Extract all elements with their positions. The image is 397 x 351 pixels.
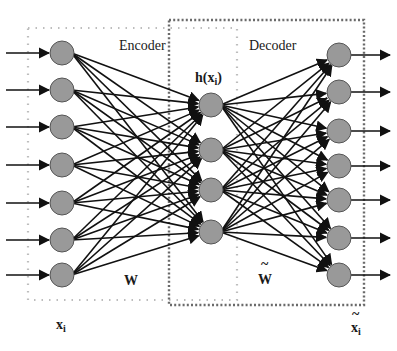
input-node	[50, 153, 74, 177]
decoder-weights-label: W	[258, 272, 272, 287]
output-label: xi	[351, 320, 361, 337]
encoder-label: Encoder	[119, 38, 166, 53]
input-node	[50, 228, 74, 252]
output-label-sub: i	[358, 326, 361, 337]
output-node	[327, 119, 351, 143]
encoder-edge	[72, 236, 199, 275]
hidden-node	[199, 93, 223, 117]
input-node	[50, 115, 74, 139]
input-label-main: x	[56, 317, 63, 332]
decoder-edge	[221, 63, 329, 150]
hidden-label-close: )	[217, 70, 222, 86]
output-node	[327, 263, 351, 287]
input-node	[50, 78, 74, 102]
input-label: xi	[56, 317, 66, 334]
encoder-edge	[72, 157, 200, 240]
decoder-edge	[221, 190, 327, 233]
decoder-weights-tilde: ~	[261, 257, 269, 272]
output-node	[327, 43, 351, 67]
output-node	[327, 154, 351, 178]
hidden-label: h(xi)	[195, 70, 222, 87]
autoencoder-diagram: Encoder Decoder h(xi) W ~ W xi ~ xi	[0, 0, 397, 351]
hidden-node	[199, 138, 223, 162]
encoder-edge	[72, 110, 199, 165]
input-node	[50, 263, 74, 287]
hidden-node	[199, 220, 223, 244]
encoder-edge	[72, 197, 200, 275]
output-node	[327, 226, 351, 250]
encoder-edge	[72, 112, 201, 203]
input-label-sub: i	[63, 323, 66, 334]
decoder-edge	[221, 232, 327, 271]
output-label-main: x	[351, 320, 358, 335]
encoder-weights-label: W	[124, 273, 138, 288]
decoder-label: Decoder	[249, 38, 297, 53]
connections	[72, 53, 332, 275]
input-node	[50, 41, 74, 65]
output-node	[327, 188, 351, 212]
encoder-edge	[72, 90, 198, 104]
output-node	[327, 80, 351, 104]
hidden-label-main: h(x	[195, 70, 214, 86]
hidden-node	[199, 178, 223, 202]
input-node	[50, 191, 74, 215]
